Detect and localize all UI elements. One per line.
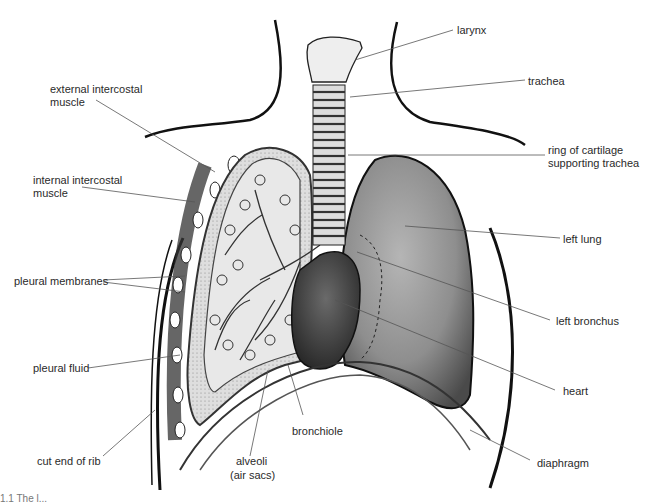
label-left-lung: left lung	[563, 233, 602, 245]
label-bronchiole: bronchiole	[292, 425, 343, 437]
label-ring-of-cartilage-1: ring of cartilage	[548, 144, 623, 156]
label-left-bronchus: left bronchus	[556, 315, 619, 327]
label-alveoli-1: alveoli	[236, 455, 267, 467]
label-external-intercostal-1: external intercostal	[50, 83, 142, 95]
neck-outline-left	[145, 20, 281, 137]
label-heart: heart	[563, 385, 588, 397]
respiratory-diagram: larynx trachea ring of cartilage support…	[0, 0, 650, 504]
label-diaphragm: diaphragm	[537, 457, 589, 469]
figure-caption-fragment: 1.1 The l...	[0, 493, 47, 504]
neck-outline-right	[391, 22, 525, 145]
label-pleural-membranes: pleural membranes	[14, 275, 108, 287]
label-cut-end-of-rib: cut end of rib	[37, 455, 101, 467]
label-larynx: larynx	[457, 24, 486, 36]
label-trachea: trachea	[528, 75, 565, 87]
label-external-intercostal-2: muscle	[50, 96, 85, 108]
label-alveoli-2: (air sacs)	[230, 469, 275, 481]
larynx	[307, 37, 362, 82]
label-pleural-fluid: pleural fluid	[33, 362, 89, 374]
trachea-rings	[313, 85, 345, 245]
label-internal-intercostal-2: muscle	[33, 187, 68, 199]
label-ring-of-cartilage-2: supporting trachea	[548, 157, 639, 169]
label-internal-intercostal-1: internal intercostal	[33, 174, 122, 186]
chest-wall-right	[490, 228, 513, 488]
